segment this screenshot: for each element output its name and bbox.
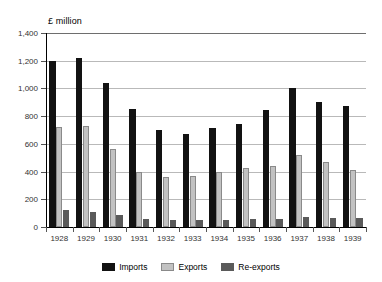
bar-exports-1937 (296, 155, 302, 227)
bar-group-1931 (126, 33, 153, 227)
bar-imports-1937 (289, 88, 295, 227)
legend-item-imports[interactable]: Imports (102, 262, 147, 272)
bar-re-exports-1934 (223, 220, 229, 227)
bar-group-1939 (339, 33, 366, 227)
bar-exports-1932 (163, 177, 169, 227)
legend-swatch-icon (102, 263, 115, 271)
x-tick-mark (366, 227, 367, 232)
bar-group-1938 (313, 33, 340, 227)
bar-group-1933 (179, 33, 206, 227)
y-tick-label: 800 (0, 112, 38, 121)
bar-re-exports-1928 (63, 210, 69, 227)
bar-group-1936 (259, 33, 286, 227)
bar-exports-1929 (83, 126, 89, 227)
bar-imports-1929 (76, 58, 82, 227)
y-tick-label: 0 (0, 223, 38, 232)
bar-re-exports-1931 (143, 219, 149, 227)
legend-label: Exports (178, 262, 207, 272)
bar-group-1935 (233, 33, 260, 227)
legend-item-re-exports[interactable]: Re-exports (221, 262, 280, 272)
bar-exports-1939 (350, 170, 356, 228)
legend-swatch-icon (221, 263, 234, 271)
bar-re-exports-1929 (90, 212, 96, 227)
bar-exports-1938 (323, 162, 329, 227)
x-tick-mark (153, 227, 154, 232)
bar-group-1930 (99, 33, 126, 227)
y-tick-label: 600 (0, 139, 38, 148)
bar-re-exports-1936 (276, 219, 282, 227)
x-tick-mark (313, 227, 314, 232)
x-tick-mark (179, 227, 180, 232)
bar-re-exports-1935 (250, 219, 256, 227)
bar-group-1937 (286, 33, 313, 227)
x-tick-mark (233, 227, 234, 232)
bar-chart: £ million 02004006008001,0001,2001,400 1… (0, 0, 382, 282)
bar-re-exports-1939 (356, 218, 362, 227)
bar-group-1934 (206, 33, 233, 227)
bar-imports-1938 (316, 102, 322, 227)
bar-re-exports-1933 (196, 220, 202, 227)
legend-item-exports[interactable]: Exports (161, 262, 207, 272)
legend-label: Re-exports (238, 262, 280, 272)
y-tick-label: 400 (0, 167, 38, 176)
bar-imports-1934 (209, 128, 215, 227)
bar-imports-1936 (263, 110, 269, 227)
x-tick-mark (126, 227, 127, 232)
bar-re-exports-1930 (116, 215, 122, 227)
bar-exports-1933 (190, 176, 196, 227)
bar-re-exports-1932 (170, 220, 176, 227)
bar-exports-1934 (216, 172, 222, 227)
x-tick-label-1939: 1939 (336, 234, 370, 243)
bar-group-1928 (46, 33, 73, 227)
bar-imports-1939 (343, 106, 349, 227)
bar-imports-1933 (183, 134, 189, 227)
bar-exports-1931 (136, 172, 142, 227)
bar-imports-1932 (156, 130, 162, 227)
x-tick-mark (286, 227, 287, 232)
legend-swatch-icon (161, 263, 174, 271)
bar-groups (46, 33, 366, 227)
x-tick-mark (46, 227, 47, 232)
bar-exports-1935 (243, 168, 249, 227)
bar-group-1929 (73, 33, 100, 227)
y-tick-label: 200 (0, 195, 38, 204)
x-tick-mark (259, 227, 260, 232)
bar-imports-1931 (129, 109, 135, 227)
y-tick-label: 1,200 (0, 56, 38, 65)
bar-imports-1930 (103, 83, 109, 227)
bar-imports-1928 (49, 61, 55, 227)
x-tick-mark (73, 227, 74, 232)
bar-re-exports-1937 (303, 217, 309, 227)
bar-imports-1935 (236, 124, 242, 227)
x-tick-mark (99, 227, 100, 232)
bar-group-1932 (153, 33, 180, 227)
chart-legend: ImportsExportsRe-exports (0, 262, 382, 272)
bar-exports-1928 (56, 127, 62, 227)
x-tick-mark (206, 227, 207, 232)
bar-re-exports-1938 (330, 218, 336, 227)
chart-axis-title: £ million (48, 16, 82, 26)
x-tick-mark (339, 227, 340, 232)
y-tick-label: 1,400 (0, 29, 38, 38)
y-tick-label: 1,000 (0, 84, 38, 93)
bar-exports-1936 (270, 166, 276, 227)
bar-exports-1930 (110, 149, 116, 227)
legend-label: Imports (119, 262, 147, 272)
